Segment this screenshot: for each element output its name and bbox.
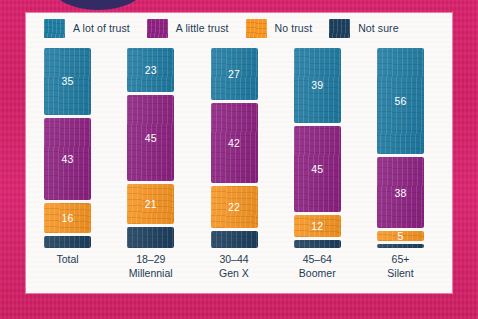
legend-swatch-icon-3 (329, 19, 350, 38)
x-axis-label-line1: 45–64 (303, 253, 332, 265)
x-axis-label-line2: Gen X (211, 266, 258, 280)
x-axis-label-line1: Total (56, 253, 78, 265)
bar-value-label: 12 (311, 220, 323, 232)
x-axis-label-line2: Boomer (294, 266, 341, 280)
bar-column-1[interactable]: 234521 (127, 48, 174, 248)
bar-segment[interactable]: 39 (294, 48, 341, 123)
bar-segment[interactable]: 27 (211, 48, 258, 100)
legend-label-1: A little trust (176, 22, 229, 34)
bar-column-4[interactable]: 56385 (377, 48, 424, 248)
legend-label-0: A lot of trust (73, 22, 130, 34)
bar-segment[interactable]: 42 (211, 103, 258, 183)
bar-value-label: 39 (311, 79, 323, 91)
x-axis-label-line1: 30–44 (219, 253, 248, 265)
legend-label-3: Not sure (358, 22, 398, 34)
bar-segment[interactable]: 45 (294, 126, 341, 212)
bar-segment[interactable]: 23 (127, 48, 174, 92)
bar-value-label: 42 (228, 137, 240, 149)
x-axis-label-line1: 65+ (392, 253, 410, 265)
legend-swatch-icon-2 (246, 19, 267, 38)
bar-value-label: 43 (61, 153, 73, 165)
bar-value-label: 5 (397, 230, 403, 242)
bar-segment[interactable] (44, 236, 91, 248)
bar-value-label: 35 (61, 75, 73, 87)
bar-value-label: 27 (228, 68, 240, 80)
bar-segment[interactable]: 21 (127, 184, 174, 224)
bar-segment[interactable]: 38 (377, 157, 424, 229)
legend-item-1[interactable]: A little trust (147, 19, 229, 38)
bar-segment[interactable] (127, 227, 174, 248)
bar-segment[interactable]: 43 (44, 118, 91, 200)
x-axis-label-line2: Millennial (127, 266, 174, 280)
legend-item-3[interactable]: Not sure (329, 19, 398, 38)
bar-segment[interactable]: 12 (294, 215, 341, 238)
x-axis-label-1: 18–29Millennial (127, 252, 174, 288)
stacked-bar-plot: 35431623452127422239451256385 (44, 48, 424, 248)
bar-value-label: 16 (61, 212, 73, 224)
x-axis-label-3: 45–64Boomer (294, 252, 341, 288)
bar-segment[interactable]: 56 (377, 48, 424, 154)
bar-segment[interactable] (294, 240, 341, 248)
bar-segment[interactable]: 16 (44, 203, 91, 234)
x-axis-label-0: Total (44, 252, 91, 288)
bar-value-label: 21 (145, 198, 157, 210)
bar-segment[interactable]: 22 (211, 186, 258, 228)
bar-segment[interactable]: 5 (377, 231, 424, 241)
bar-column-3[interactable]: 394512 (294, 48, 341, 248)
x-axis-labels: Total18–29Millennial30–44Gen X45–64Boome… (44, 252, 424, 288)
x-axis-label-line2: Silent (377, 266, 424, 280)
bar-column-2[interactable]: 274222 (211, 48, 258, 248)
bar-value-label: 38 (394, 187, 406, 199)
bar-segment[interactable] (377, 244, 424, 248)
legend-swatch-icon-0 (44, 19, 65, 38)
legend-item-0[interactable]: A lot of trust (44, 19, 130, 38)
bar-value-label: 23 (145, 64, 157, 76)
legend-label-2: No trust (275, 22, 313, 34)
x-axis-label-4: 65+Silent (377, 252, 424, 288)
bar-column-0[interactable]: 354316 (44, 48, 91, 248)
bar-value-label: 45 (145, 132, 157, 144)
bar-segment[interactable] (211, 231, 258, 248)
bar-value-label: 22 (228, 201, 240, 213)
legend-swatch-icon-1 (147, 19, 168, 38)
x-axis-label-2: 30–44Gen X (211, 252, 258, 288)
x-axis-label-line1: 18–29 (136, 253, 165, 265)
chart-legend: A lot of trustA little trustNo trustNot … (44, 15, 414, 41)
bar-segment[interactable]: 35 (44, 48, 91, 115)
legend-item-2[interactable]: No trust (246, 19, 313, 38)
bar-value-label: 56 (394, 95, 406, 107)
bar-segment[interactable]: 45 (127, 95, 174, 181)
bar-value-label: 45 (311, 163, 323, 175)
